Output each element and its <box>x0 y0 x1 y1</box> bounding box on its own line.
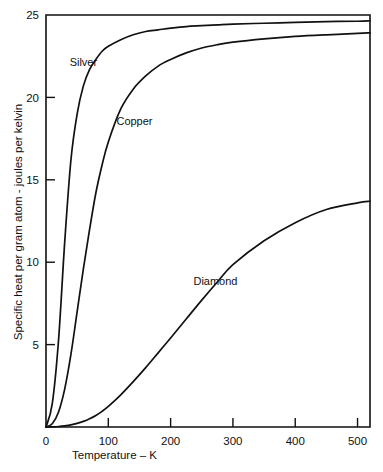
series-label-copper: Copper <box>116 115 152 127</box>
specific-heat-line-chart: 510152025 0100200300400500 SilverCopperD… <box>0 0 383 472</box>
x-tick-label: 500 <box>348 435 367 447</box>
series-annotations: SilverCopperDiamond <box>70 56 238 287</box>
x-axis-ticks <box>108 418 357 427</box>
y-tick-label: 10 <box>26 256 39 268</box>
chart-container: 510152025 0100200300400500 SilverCopperD… <box>0 0 383 472</box>
plot-border <box>46 15 370 427</box>
y-axis-title: Specific heat per gram atom - joules per… <box>12 104 24 341</box>
series-curve-diamond <box>46 201 370 427</box>
y-tick-label: 25 <box>26 9 39 21</box>
series-label-silver: Silver <box>70 56 98 68</box>
series-curve-copper <box>46 33 370 427</box>
x-tick-label: 200 <box>161 435 180 447</box>
x-axis-title: Temperature – K <box>72 449 157 461</box>
x-tick-label: 0 <box>43 435 49 447</box>
plot-frame <box>46 15 370 427</box>
y-tick-label: 5 <box>33 339 39 351</box>
series-curves <box>46 21 370 427</box>
y-tick-label: 20 <box>26 92 39 104</box>
series-label-diamond: Diamond <box>193 275 237 287</box>
series-curve-silver <box>46 21 370 427</box>
y-axis-ticks <box>46 97 55 344</box>
x-tick-label: 100 <box>99 435 118 447</box>
x-tick-label: 400 <box>286 435 305 447</box>
y-tick-label: 15 <box>26 174 39 186</box>
x-tick-label: 300 <box>223 435 242 447</box>
x-axis-tick-labels: 0100200300400500 <box>43 435 367 447</box>
y-axis-tick-labels: 510152025 <box>26 9 39 351</box>
